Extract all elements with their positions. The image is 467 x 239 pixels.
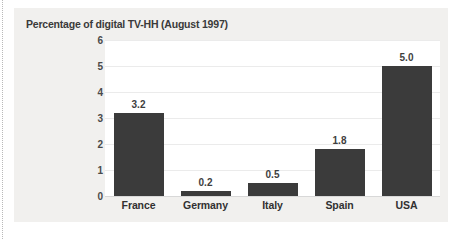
bar: [181, 191, 231, 196]
bar-value-label: 3.2: [132, 99, 146, 110]
figure-panel: Percentage of digital TV-HH (August 1997…: [14, 8, 448, 222]
bar-group: 5.0: [382, 40, 432, 196]
bar-group: 0.2: [181, 40, 231, 196]
chart-screenshot: Percentage of digital TV-HH (August 1997…: [0, 0, 467, 239]
x-axis-category-label: USA: [373, 199, 440, 211]
x-axis-category-label: Spain: [306, 199, 373, 211]
chart-title: Percentage of digital TV-HH (August 1997…: [26, 18, 228, 30]
bar: [248, 183, 298, 196]
bar: [315, 149, 365, 196]
y-axis-tick-label: 5: [97, 61, 103, 72]
y-axis-tick-label: 3: [97, 113, 103, 124]
bar-value-label: 5.0: [400, 52, 414, 63]
bar-value-label: 0.2: [199, 177, 213, 188]
x-axis-category-label: Italy: [239, 199, 306, 211]
left-margin-dotted-rule: [2, 0, 3, 239]
x-axis-labels: FranceGermanyItalySpainUSA: [105, 199, 440, 217]
x-axis-category-label: Germany: [172, 199, 239, 211]
bar: [382, 66, 432, 196]
y-axis-tick-label: 2: [97, 139, 103, 150]
bar-group: 3.2: [114, 40, 164, 196]
bar-group: 1.8: [315, 40, 365, 196]
gridline: [105, 196, 440, 197]
bar-value-label: 0.5: [266, 169, 280, 180]
bars-layer: 3.20.20.51.85.0: [105, 40, 440, 196]
y-axis: 0123456: [77, 40, 103, 196]
y-axis-tick-label: 0: [97, 191, 103, 202]
x-axis-category-label: France: [105, 199, 172, 211]
y-axis-tick-label: 1: [97, 165, 103, 176]
y-axis-tick-label: 4: [97, 87, 103, 98]
bar: [114, 113, 164, 196]
bar-group: 0.5: [248, 40, 298, 196]
y-axis-tick-label: 6: [97, 35, 103, 46]
bar-value-label: 1.8: [333, 135, 347, 146]
